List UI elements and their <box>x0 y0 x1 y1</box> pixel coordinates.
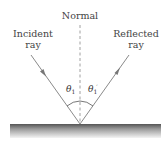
reflecting-surface <box>10 124 161 138</box>
incident-label-line2: ray <box>25 39 41 50</box>
incident-angle-label: θ1 <box>66 84 75 95</box>
reflected-angle-arc <box>80 101 93 106</box>
incident-label-line1: Incident <box>13 28 53 39</box>
incident-angle-arc <box>67 101 80 106</box>
reflection-diagram: Normal Incident ray Reflected ray θ1 θ1′ <box>0 0 167 141</box>
reflected-label-line1: Reflected <box>113 28 159 39</box>
normal-label: Normal <box>62 10 98 21</box>
reflected-label-line2: ray <box>128 39 144 50</box>
reflected-angle-label: θ1′ <box>88 83 98 95</box>
incident-arrow-icon <box>40 69 46 77</box>
